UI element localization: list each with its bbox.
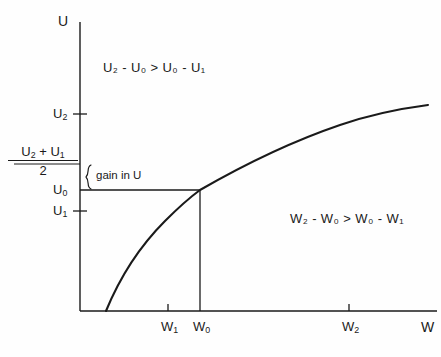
plot-canvas [0, 0, 441, 357]
y-tick-label-u0-main: U [53, 182, 62, 197]
y-tick-label-u1: U1 [53, 204, 67, 217]
fraction-numerator-operator: + [39, 144, 47, 159]
fraction-numerator-u2-main: U [21, 144, 30, 159]
utility-inequality-annotation: U₂ - U₀ > U₀ - U₁ [103, 61, 206, 74]
x-tick-label-w2: W2 [342, 320, 359, 333]
x-tick-label-w0: W0 [193, 320, 210, 333]
x-tick-label-w2-sub: 2 [354, 325, 359, 335]
utility-curve [106, 105, 428, 311]
fraction-numerator-u1-main: U [50, 144, 59, 159]
fraction-denominator: 2 [10, 161, 76, 178]
y-tick-label-u2-sub: 2 [62, 112, 67, 122]
y-tick-label-u0-sub: 0 [62, 188, 67, 198]
gain-in-u-label: gain in U [96, 170, 141, 182]
x-tick-label-w0-sub: 0 [205, 325, 210, 335]
utility-of-wealth-figure: U W U2 U0 U1 W1 W0 W2 U2 + U1 2 gain in … [0, 0, 441, 357]
fraction-numerator-u1-sub: 1 [60, 150, 65, 160]
gain-brace-icon [86, 165, 91, 189]
x-axis-label: W [421, 320, 434, 334]
y-axis-label: U [58, 14, 68, 28]
fraction-numerator-u2-sub: 2 [31, 150, 36, 160]
y-tick-label-u2-main: U [53, 106, 62, 121]
x-tick-label-w1-sub: 1 [173, 325, 178, 335]
y-tick-label-u0: U0 [53, 183, 67, 196]
wealth-inequality-annotation: W₂ - W₀ > W₀ - W₁ [290, 212, 404, 225]
y-tick-label-u1-sub: 1 [62, 209, 67, 219]
midpoint-utility-fraction-label: U2 + U1 2 [10, 144, 76, 178]
x-tick-label-w1: W1 [161, 320, 178, 333]
y-tick-label-u2: U2 [53, 107, 67, 120]
fraction-numerator: U2 + U1 [10, 144, 76, 160]
x-tick-label-w0-main: W [193, 319, 205, 334]
x-tick-label-w2-main: W [342, 319, 354, 334]
x-tick-label-w1-main: W [161, 319, 173, 334]
y-tick-label-u1-main: U [53, 203, 62, 218]
